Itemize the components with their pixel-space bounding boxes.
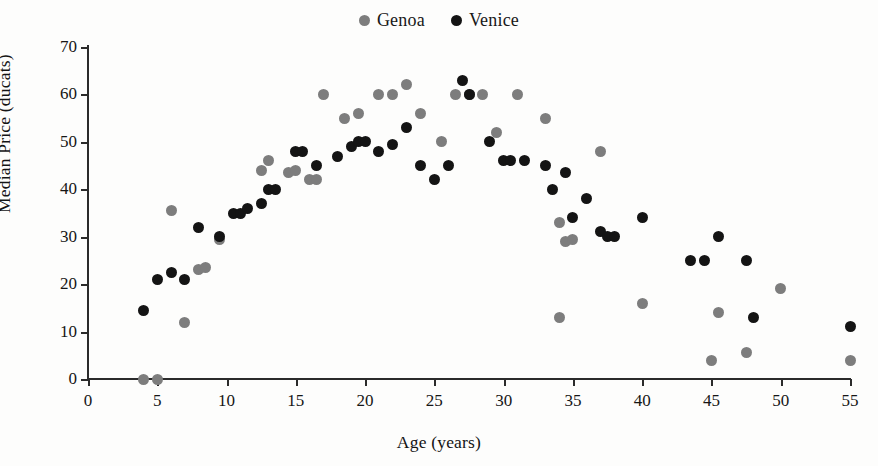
data-point-venice — [560, 167, 571, 178]
data-point-venice — [152, 274, 163, 285]
y-tick-mark — [81, 237, 88, 239]
legend-item-genoa: Genoa — [359, 10, 425, 31]
x-tick-mark — [434, 379, 436, 386]
data-point-venice — [297, 146, 308, 157]
data-point-genoa — [373, 89, 384, 100]
y-tick-mark — [81, 189, 88, 191]
y-tick-label: 0 — [69, 369, 78, 389]
plot-area: 010203040506070 0510152025303540455055 — [88, 47, 850, 379]
data-point-venice — [415, 160, 426, 171]
data-point-genoa — [256, 165, 267, 176]
data-point-venice — [360, 136, 371, 147]
data-point-genoa — [540, 113, 551, 124]
data-point-genoa — [179, 317, 190, 328]
legend-swatch-venice — [451, 15, 462, 26]
x-tick-mark — [365, 379, 367, 386]
data-point-genoa — [741, 347, 752, 358]
y-tick-label: 60 — [60, 84, 77, 104]
data-point-genoa — [595, 146, 606, 157]
data-point-venice — [429, 174, 440, 185]
data-point-venice — [179, 274, 190, 285]
data-point-venice — [713, 231, 724, 242]
data-point-venice — [332, 151, 343, 162]
legend-item-venice: Venice — [451, 10, 519, 31]
x-tick-mark — [573, 379, 575, 386]
data-point-venice — [567, 212, 578, 223]
data-point-genoa — [637, 298, 648, 309]
y-tick-label: 30 — [60, 227, 77, 247]
x-tick-label: 10 — [218, 391, 235, 411]
y-tick-label: 50 — [60, 132, 77, 152]
x-tick-label: 30 — [495, 391, 512, 411]
data-point-genoa — [387, 89, 398, 100]
data-point-venice — [256, 198, 267, 209]
data-point-genoa — [311, 174, 322, 185]
x-axis-title: Age (years) — [0, 432, 878, 453]
x-tick-label: 45 — [703, 391, 720, 411]
data-point-venice — [547, 184, 558, 195]
data-point-venice — [311, 160, 322, 171]
y-tick-mark — [81, 332, 88, 334]
data-point-genoa — [554, 312, 565, 323]
data-point-venice — [242, 203, 253, 214]
y-tick-label: 40 — [60, 179, 77, 199]
legend-label-venice: Venice — [469, 10, 519, 31]
scatter-chart: Genoa Venice 010203040506070 05101520253… — [0, 0, 878, 466]
data-point-venice — [519, 155, 530, 166]
legend-label-genoa: Genoa — [377, 10, 425, 31]
data-point-venice — [609, 231, 620, 242]
data-point-venice — [464, 89, 475, 100]
data-point-venice — [193, 222, 204, 233]
data-point-genoa — [775, 283, 786, 294]
data-point-genoa — [512, 89, 523, 100]
x-tick-mark — [850, 379, 852, 386]
data-point-venice — [484, 136, 495, 147]
data-point-genoa — [436, 136, 447, 147]
y-tick-label: 20 — [60, 274, 77, 294]
data-point-genoa — [477, 89, 488, 100]
data-point-venice — [741, 255, 752, 266]
data-point-genoa — [138, 374, 149, 385]
data-point-genoa — [554, 217, 565, 228]
x-tick-label: 40 — [634, 391, 651, 411]
x-tick-mark — [296, 379, 298, 386]
y-tick-mark — [81, 47, 88, 49]
data-point-genoa — [339, 113, 350, 124]
x-tick-mark — [504, 379, 506, 386]
x-tick-mark — [711, 379, 713, 386]
y-tick-label: 10 — [60, 322, 77, 342]
x-tick-label: 50 — [772, 391, 789, 411]
y-tick-mark — [81, 379, 88, 381]
data-point-genoa — [200, 262, 211, 273]
data-point-genoa — [263, 155, 274, 166]
x-tick-label: 35 — [564, 391, 581, 411]
data-point-genoa — [415, 108, 426, 119]
data-point-venice — [540, 160, 551, 171]
data-point-venice — [166, 267, 177, 278]
data-point-genoa — [713, 307, 724, 318]
data-point-genoa — [845, 355, 856, 366]
x-tick-label: 15 — [287, 391, 304, 411]
data-point-venice — [581, 193, 592, 204]
data-point-venice — [387, 139, 398, 150]
y-tick-mark — [81, 94, 88, 96]
data-point-genoa — [450, 89, 461, 100]
data-point-genoa — [706, 355, 717, 366]
legend-swatch-genoa — [359, 15, 370, 26]
data-point-venice — [138, 305, 149, 316]
x-tick-mark — [781, 379, 783, 386]
data-point-genoa — [166, 205, 177, 216]
x-tick-mark — [227, 379, 229, 386]
data-point-venice — [685, 255, 696, 266]
x-tick-label: 25 — [426, 391, 443, 411]
data-point-genoa — [401, 79, 412, 90]
x-tick-label: 55 — [842, 391, 859, 411]
x-tick-label: 20 — [357, 391, 374, 411]
data-point-genoa — [353, 108, 364, 119]
y-tick-label: 70 — [60, 37, 77, 57]
data-point-genoa — [567, 234, 578, 245]
data-point-venice — [270, 184, 281, 195]
chart-legend: Genoa Venice — [0, 6, 878, 34]
data-point-venice — [505, 155, 516, 166]
x-tick-mark — [642, 379, 644, 386]
